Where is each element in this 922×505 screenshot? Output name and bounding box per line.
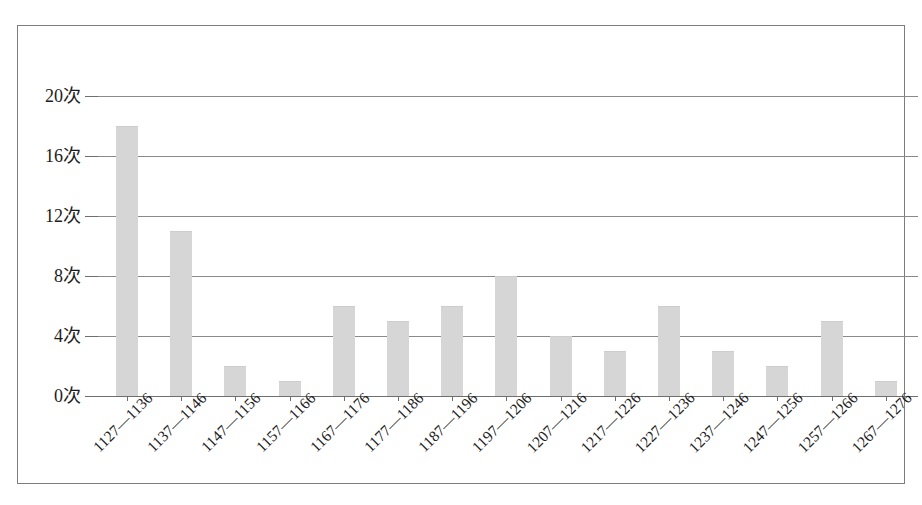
bar bbox=[495, 276, 517, 396]
x-axis-tick bbox=[832, 396, 833, 401]
y-axis-label: 20次 bbox=[45, 87, 81, 105]
y-axis-label: 0次 bbox=[54, 387, 81, 405]
bar bbox=[875, 381, 897, 396]
x-axis-tick bbox=[777, 396, 778, 401]
y-axis-label: 8次 bbox=[54, 267, 81, 285]
y-axis-label: 12次 bbox=[45, 207, 81, 225]
y-axis-label: 4次 bbox=[54, 327, 81, 345]
x-axis-tick bbox=[181, 396, 182, 401]
x-axis-tick bbox=[398, 396, 399, 401]
x-axis-tick bbox=[452, 396, 453, 401]
x-axis-tick bbox=[235, 396, 236, 401]
bar bbox=[604, 351, 626, 396]
bar bbox=[658, 306, 680, 396]
bar bbox=[333, 306, 355, 396]
bar bbox=[170, 231, 192, 396]
x-axis-tick bbox=[127, 396, 128, 401]
plot-area: 0次4次8次12次16次20次1127—11361137—11461147—11… bbox=[98, 96, 920, 396]
x-axis-tick bbox=[886, 396, 887, 401]
bar bbox=[766, 366, 788, 396]
gridline-20 bbox=[98, 96, 918, 97]
bar bbox=[821, 321, 843, 396]
bar bbox=[550, 336, 572, 396]
y-axis-tick-12 bbox=[85, 216, 98, 217]
y-axis-tick-20 bbox=[85, 96, 98, 97]
x-axis-tick bbox=[669, 396, 670, 401]
chart-frame: 0次4次8次12次16次20次1127—11361137—11461147—11… bbox=[17, 25, 905, 484]
bar bbox=[279, 381, 301, 396]
bar bbox=[116, 126, 138, 396]
bar bbox=[224, 366, 246, 396]
y-axis-label: 16次 bbox=[45, 147, 81, 165]
x-axis-tick bbox=[290, 396, 291, 401]
bar bbox=[387, 321, 409, 396]
x-axis-tick bbox=[506, 396, 507, 401]
x-axis-tick bbox=[561, 396, 562, 401]
y-axis-tick-16 bbox=[85, 156, 98, 157]
gridline-12 bbox=[98, 216, 918, 217]
y-axis-tick-4 bbox=[85, 336, 98, 337]
x-axis-tick bbox=[615, 396, 616, 401]
x-axis-tick bbox=[723, 396, 724, 401]
gridline-16 bbox=[98, 156, 918, 157]
chart-figure: 0次4次8次12次16次20次1127—11361137—11461147—11… bbox=[0, 0, 922, 505]
bar bbox=[441, 306, 463, 396]
y-axis-tick-8 bbox=[85, 276, 98, 277]
x-axis-tick bbox=[344, 396, 345, 401]
bar bbox=[712, 351, 734, 396]
y-axis-tick-0 bbox=[85, 396, 98, 397]
